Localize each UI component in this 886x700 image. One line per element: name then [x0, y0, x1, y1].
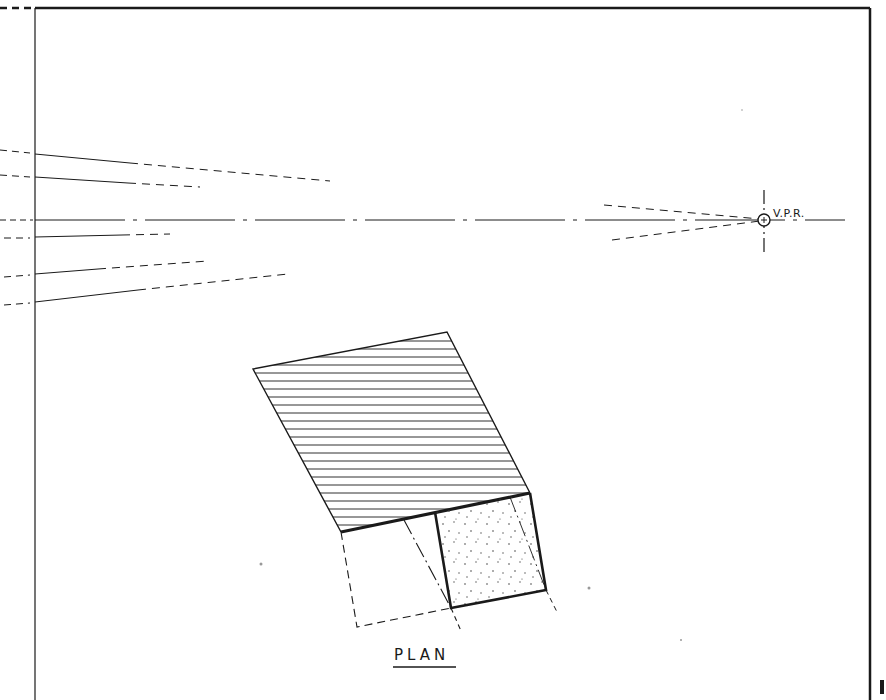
perspective-drawing: V.P.R. — [0, 0, 886, 700]
converging-lines-left — [0, 150, 330, 305]
vanishing-point-label: V.P.R. — [773, 207, 805, 220]
corner-mark — [880, 680, 884, 694]
vanishing-point-marker — [758, 190, 770, 252]
stippled-square — [435, 493, 557, 612]
plan-label: PLAN — [394, 646, 449, 664]
converging-lines-right — [604, 205, 760, 240]
drawing-frame — [0, 8, 884, 700]
